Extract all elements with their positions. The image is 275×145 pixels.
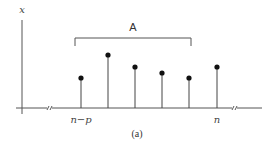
stem-dot-icon [214, 64, 219, 69]
figure-caption: (a) [131, 128, 142, 140]
stem-dot-icon [186, 75, 191, 80]
stem [78, 75, 83, 108]
stem [159, 70, 164, 108]
y-axis-label: x [19, 4, 25, 15]
stem-dot-icon [132, 64, 137, 69]
stem [186, 75, 191, 108]
stem [214, 64, 219, 108]
stem [105, 52, 110, 108]
x-tick-label-n-minus-p: n−p [70, 114, 92, 125]
x-tick-label-n: n [214, 114, 220, 125]
bracket-label: A [129, 21, 137, 33]
stem-dot-icon [159, 70, 164, 75]
bracket-a [75, 38, 191, 46]
stems [78, 52, 219, 108]
axis-break-left-icon [47, 106, 52, 110]
stem [132, 64, 137, 108]
stem-dot-icon [105, 52, 110, 57]
stem-diagram: x A n−p n (a) [0, 0, 275, 145]
stem-dot-icon [78, 75, 83, 80]
axis-break-right-icon [232, 106, 237, 110]
